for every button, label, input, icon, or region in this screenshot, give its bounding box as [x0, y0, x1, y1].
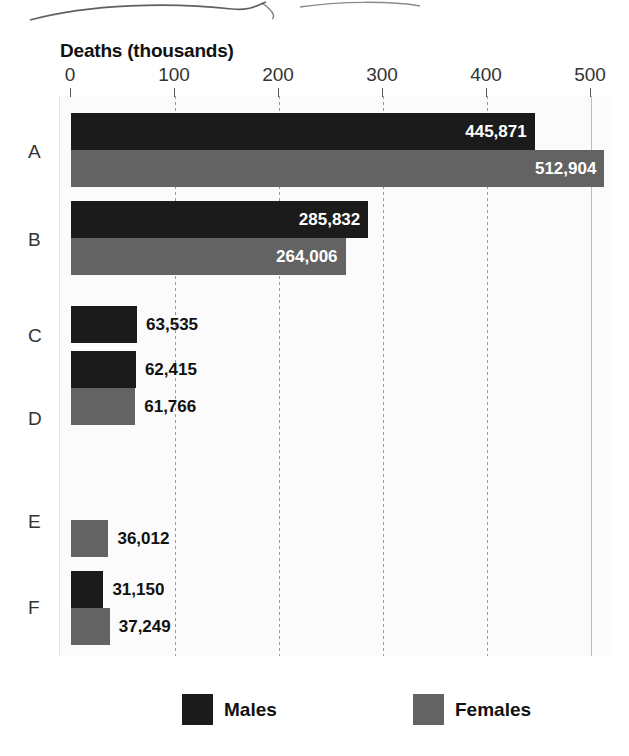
- legend-swatch-male: [182, 694, 213, 725]
- legend-label: Females: [455, 699, 531, 721]
- category-label-a: A: [28, 141, 41, 163]
- category-label-b: B: [28, 229, 41, 251]
- bar-value-label: 36,012: [117, 529, 169, 549]
- bar-value-label: 62,415: [145, 360, 197, 380]
- x-tick-mark-400: [486, 88, 487, 97]
- x-axis-tick-labels: 0100200300400500: [0, 64, 629, 88]
- chart-legend: MalesFemales: [0, 694, 629, 734]
- bar-value-label: 264,006: [276, 247, 337, 267]
- category-label-f: F: [28, 597, 40, 619]
- bar-a-male: 445,871: [71, 113, 535, 150]
- legend-label: Males: [224, 699, 277, 721]
- bar-f-male: 31,150: [71, 571, 103, 608]
- bar-c-male: 63,535: [71, 306, 137, 343]
- legend-item-female[interactable]: Females: [413, 694, 531, 725]
- bar-d-female: 61,766: [71, 388, 135, 425]
- x-tick-label-0: 0: [65, 64, 76, 86]
- category-label-e: E: [28, 511, 41, 533]
- bar-e-female: 36,012: [71, 520, 108, 557]
- x-tick-mark-100: [174, 88, 175, 97]
- chart-page: { "chart_data": { "type": "bar", "orient…: [0, 0, 629, 756]
- category-label-d: D: [28, 408, 42, 430]
- legend-item-male[interactable]: Males: [182, 694, 277, 725]
- legend-swatch-female: [413, 694, 444, 725]
- category-label-c: C: [28, 325, 42, 347]
- scan-artifact: [0, 0, 629, 26]
- chart-title: Deaths (thousands): [60, 40, 234, 62]
- x-tick-label-100: 100: [158, 64, 190, 86]
- x-tick-label-500: 500: [574, 64, 606, 86]
- bar-f-female: 37,249: [71, 608, 110, 645]
- bar-value-label: 512,904: [535, 159, 596, 179]
- x-tick-label-400: 400: [470, 64, 502, 86]
- bar-value-label: 63,535: [146, 315, 198, 335]
- x-tick-label-300: 300: [366, 64, 398, 86]
- x-tick-label-200: 200: [262, 64, 294, 86]
- x-tick-mark-500: [590, 88, 591, 97]
- bar-b-female: 264,006: [71, 238, 346, 275]
- bar-value-label: 285,832: [299, 210, 360, 230]
- bar-value-label: 37,249: [119, 617, 171, 637]
- bar-value-label: 61,766: [144, 397, 196, 417]
- plot-area: 445,871512,904285,832264,00663,53562,415…: [59, 96, 612, 656]
- bar-value-label: 445,871: [465, 122, 526, 142]
- bar-d-male: 62,415: [71, 351, 136, 388]
- x-tick-mark-0: [70, 88, 71, 97]
- x-tick-mark-200: [278, 88, 279, 97]
- bar-a-female: 512,904: [71, 150, 604, 187]
- bar-b-male: 285,832: [71, 201, 368, 238]
- x-tick-mark-300: [382, 88, 383, 97]
- bar-value-label: 31,150: [112, 580, 164, 600]
